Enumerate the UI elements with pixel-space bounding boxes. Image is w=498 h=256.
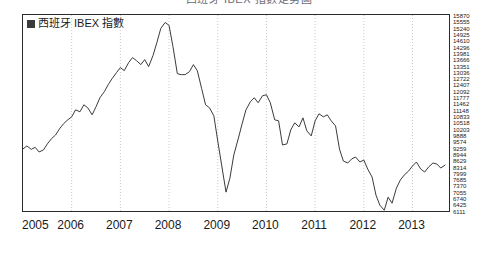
gridlines-vertical [72,15,413,211]
series-line-0 [23,22,445,210]
x-tick-label-2007: 2007 [106,218,133,233]
y-tick-label: 12722 [453,76,498,82]
y-tick-label: 11777 [453,95,498,101]
y-tick-label: 13351 [453,64,498,70]
legend: 西班牙 IBEX 指數 [27,17,124,30]
x-tick-label-2012: 2012 [349,218,376,233]
y-tick-label: 11462 [453,101,498,107]
y-tick-label: 7055 [453,190,498,196]
y-tick-label: 14925 [453,32,498,38]
legend-swatch-icon [27,20,35,28]
y-tick-label: 6111 [453,209,498,215]
y-tick-label: 7370 [453,183,498,189]
plot-canvas [23,15,449,211]
y-tick-label: 15240 [453,26,498,32]
y-tick-label: 8944 [453,152,498,158]
y-tick-label: 6740 [453,196,498,202]
y-tick-label: 14610 [453,38,498,44]
x-axis-tick-labels: 200520062007200820092010201120122013 [0,218,498,236]
x-tick-label-2010: 2010 [252,218,279,233]
y-tick-label: 7999 [453,171,498,177]
y-tick-label: 11148 [453,108,498,114]
y-tick-label: 13981 [453,51,498,57]
x-tick-label-2006: 2006 [57,218,84,233]
y-tick-label: 10518 [453,120,498,126]
y-tick-label: 9574 [453,139,498,145]
chart-figure: 西班牙 IBEX 指數走勢圖 西班牙 IBEX 指數 1587015555152… [0,0,498,256]
y-tick-label: 10833 [453,114,498,120]
x-tick-label-2013: 2013 [398,218,425,233]
data-series-group [23,22,445,210]
y-tick-label: 9259 [453,146,498,152]
y-tick-label: 8629 [453,158,498,164]
x-tick-label-2009: 2009 [203,218,230,233]
x-tick-label-2011: 2011 [301,218,327,233]
y-tick-label: 9888 [453,133,498,139]
y-tick-label: 15870 [453,13,498,19]
plot-area [22,14,450,212]
y-tick-label: 7685 [453,177,498,183]
y-tick-label: 13666 [453,57,498,63]
y-tick-label: 13036 [453,70,498,76]
x-tick-label-2008: 2008 [155,218,182,233]
y-tick-label: 12092 [453,89,498,95]
legend-label: 西班牙 IBEX 指數 [38,17,124,30]
y-tick-label: 15555 [453,19,498,25]
y-axis-tick-labels: 1587015555152401492514610142961398113666… [453,13,498,215]
y-tick-label: 14296 [453,45,498,51]
chart-title: 西班牙 IBEX 指數走勢圖 [0,0,498,5]
y-tick-label: 8314 [453,165,498,171]
y-tick-label: 10203 [453,127,498,133]
y-tick-label: 6425 [453,202,498,208]
x-tick-label-2005: 2005 [22,218,49,233]
y-tick-label: 12407 [453,82,498,88]
